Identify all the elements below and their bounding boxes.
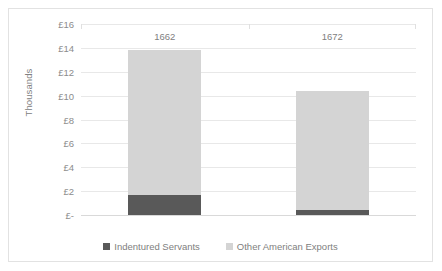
axis-line-baseline xyxy=(81,215,416,216)
y-axis-tick-label: £12 xyxy=(58,66,74,77)
bar-group[interactable] xyxy=(128,24,201,215)
x-axis-tick xyxy=(415,24,416,29)
y-axis-tick-label: £- xyxy=(66,210,74,221)
y-axis-tick-label: £14 xyxy=(58,42,74,53)
x-axis-tick-label: 1662 xyxy=(120,31,210,42)
x-axis-tick xyxy=(249,24,250,29)
bar-group[interactable] xyxy=(296,24,369,215)
legend-swatch-icon xyxy=(103,243,110,250)
plot-area: £16£14£12£10£8£6£4£2£- 16621672 xyxy=(81,24,416,215)
y-axis-title: Thousands xyxy=(23,38,34,148)
x-axis-tick xyxy=(81,24,82,29)
y-axis-tick-label: £16 xyxy=(58,19,74,30)
legend-label: Other American Exports xyxy=(237,241,338,252)
legend-label: Indentured Servants xyxy=(114,241,200,252)
chart-legend: Indentured ServantsOther American Export… xyxy=(9,241,432,252)
x-axis-tick-label: 1672 xyxy=(287,31,377,42)
legend-item[interactable]: Other American Exports xyxy=(226,241,338,252)
bar-segment[interactable] xyxy=(296,91,369,210)
legend-swatch-icon xyxy=(226,243,233,250)
legend-item[interactable]: Indentured Servants xyxy=(103,241,200,252)
y-axis-tick-label: £6 xyxy=(63,138,74,149)
bar-segment[interactable] xyxy=(296,210,369,215)
y-axis-tick-label: £8 xyxy=(63,114,74,125)
y-axis-tick-label: £2 xyxy=(63,186,74,197)
y-axis-tick-label: £10 xyxy=(58,90,74,101)
bar-segment[interactable] xyxy=(128,195,201,215)
chart-container: Thousands £16£14£12£10£8£6£4£2£- 1662167… xyxy=(8,8,433,262)
bar-segment[interactable] xyxy=(128,50,201,194)
y-axis-tick-label: £4 xyxy=(63,162,74,173)
